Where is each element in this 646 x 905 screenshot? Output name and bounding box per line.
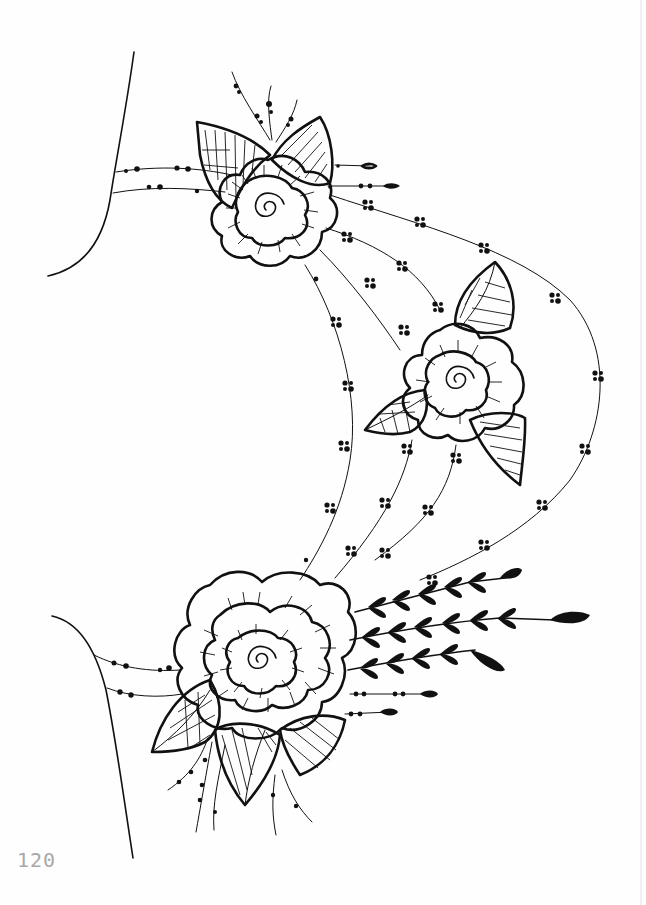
bottom-hand-outline [52,616,182,858]
page-number: 120 [17,848,56,872]
henna-illustration [0,0,646,905]
dotted-strands [168,72,604,835]
fern-sprigs [345,568,590,716]
top-hand-outline [48,52,232,276]
coloring-page: 120 [0,0,646,905]
bottom-rose [152,572,356,805]
middle-rose [365,262,525,485]
